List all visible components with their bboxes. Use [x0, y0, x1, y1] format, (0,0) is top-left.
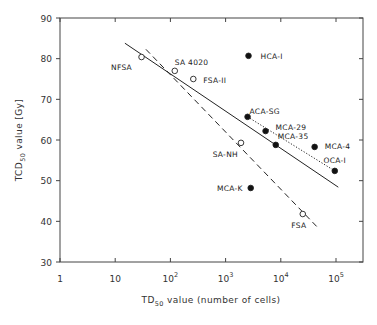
filled-circle-marker: [246, 53, 252, 59]
x-tick-label: 104: [273, 271, 289, 284]
x-tick-label: 103: [218, 271, 234, 284]
y-tick-label: 30: [41, 258, 53, 268]
point-label: OCA-I: [324, 156, 347, 165]
data-points: NFSASA 4020FSA-IISA-NHFSAHCA-IACA-SGMCA-…: [111, 52, 350, 229]
filled-circle-marker: [263, 128, 269, 134]
y-tick-label: 40: [41, 217, 53, 227]
filled-circle-marker: [248, 185, 254, 191]
y-tick-label: 70: [41, 95, 53, 105]
open-circle-marker: [238, 140, 244, 146]
y-tick-label: 50: [41, 176, 53, 186]
plot-frame: [60, 18, 363, 262]
scatter-chart: 30405060708090 110102103104105 NFSASA 40…: [0, 0, 377, 325]
x-tick-label: 105: [328, 271, 344, 284]
point-label: FSA-II: [203, 76, 226, 85]
filled-circle-marker: [273, 142, 279, 148]
open-circle-marker: [172, 68, 178, 74]
point-label: MCA-4: [325, 142, 351, 151]
y-tick-label: 90: [41, 14, 53, 24]
point-label: SA 4020: [175, 58, 209, 67]
point-label: SA-NH: [213, 150, 238, 159]
y-axis-title: TCD50 value [Gy]: [14, 99, 27, 183]
y-axis-ticks: 30405060708090: [41, 14, 363, 268]
x-tick-label: 102: [163, 271, 179, 284]
point-label: MCA-K: [217, 184, 244, 193]
point-label: NFSA: [111, 63, 133, 72]
y-tick-label: 60: [41, 136, 53, 146]
point-label: MCA-35: [278, 132, 309, 141]
point-label: FSA: [291, 221, 307, 230]
open-circle-marker: [300, 211, 306, 217]
point-label: HCA-I: [261, 52, 283, 61]
open-circle-marker: [191, 76, 197, 82]
filled-circle-marker: [312, 144, 318, 150]
regression-line-solid: [125, 43, 338, 187]
point-label: MCA-29: [276, 123, 307, 132]
y-tick-label: 80: [41, 54, 53, 64]
x-tick-label: 10: [109, 274, 121, 284]
x-axis-title: TD50 value (number of cells): [141, 295, 281, 308]
point-label: ACA-SG: [250, 107, 280, 116]
open-circle-marker: [139, 54, 145, 60]
filled-circle-marker: [332, 168, 338, 174]
x-tick-label: 1: [57, 274, 63, 284]
